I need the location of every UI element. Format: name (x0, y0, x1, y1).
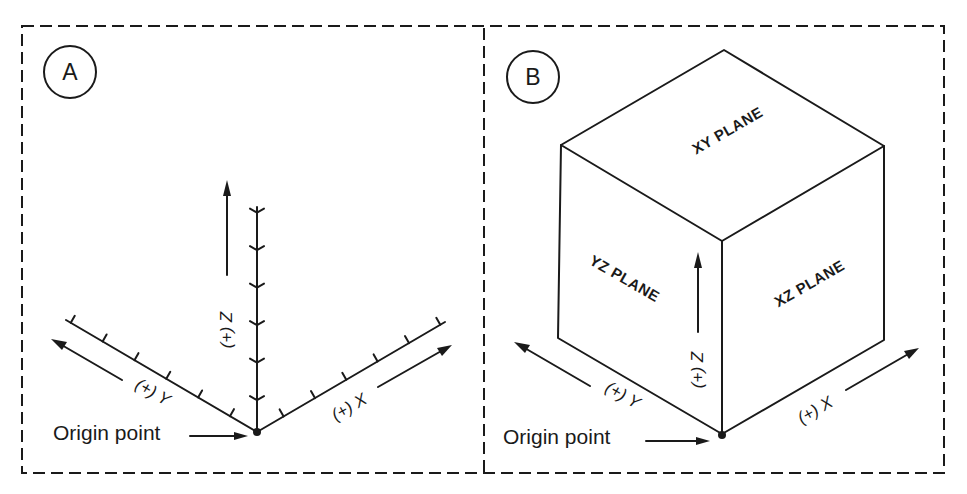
badge-label: B (525, 64, 540, 90)
axis-tick (134, 353, 138, 360)
origin-dot (253, 428, 261, 436)
axis-tick (257, 209, 264, 213)
axis-tick (342, 373, 346, 380)
axis-tick (250, 359, 257, 363)
badge-label: A (62, 59, 78, 85)
xz-plane-label: XZ PLANE (771, 256, 847, 310)
origin-dot (718, 431, 726, 439)
axis-tick (71, 316, 75, 323)
axis-tick (166, 372, 170, 379)
axis-tick (311, 391, 315, 398)
x-axis-label: (+) X (794, 392, 836, 427)
arrowhead-icon (223, 180, 231, 196)
isometric-cube (558, 50, 884, 434)
axis-tick (103, 334, 107, 341)
arrowhead-icon (696, 437, 710, 445)
cube-top-face (561, 50, 884, 241)
panel-a: A (+) Z (+) Y (+) X Origin point (44, 46, 452, 444)
axis-tick (257, 396, 264, 400)
axis-tick (230, 409, 234, 416)
axis-tick (198, 390, 202, 397)
origin-label: Origin point (53, 421, 161, 444)
axis-tick (257, 246, 264, 250)
y-direction-arrow (514, 342, 590, 386)
axis-tick (250, 209, 257, 213)
arrowhead-icon (51, 339, 67, 350)
axis-tick (250, 396, 257, 400)
arrowhead-icon (904, 348, 919, 359)
panel-a-badge: A (44, 46, 96, 98)
x-axis-label: (+) X (328, 389, 370, 424)
z-direction-arrow (694, 252, 702, 332)
axis-tick (405, 336, 409, 343)
origin-pointer-arrow (646, 437, 710, 445)
axis-tick (257, 359, 264, 363)
x-direction-arrow (378, 345, 452, 387)
axis-tick (374, 354, 378, 361)
y-axis-label: (+) Y (602, 378, 645, 414)
axis-tick (250, 284, 257, 288)
axis-tick (280, 409, 284, 416)
arrowhead-icon (234, 432, 248, 440)
axis-tick (436, 318, 440, 325)
panel-b-badge: B (507, 51, 559, 103)
x-direction-arrow (846, 348, 919, 390)
arrowhead-icon (694, 252, 702, 268)
yz-plane-label: YZ PLANE (587, 251, 663, 305)
panel-b: B XY PLANE YZ PLANE XZ PLANE (+) Z (+) Y… (503, 50, 919, 448)
y-direction-arrow (51, 339, 122, 380)
arrowhead-icon (437, 345, 452, 356)
xy-plane-label: XY PLANE (689, 103, 766, 157)
axis-tick (250, 321, 257, 325)
axis-tick (257, 321, 264, 325)
axis-tick (250, 246, 257, 250)
origin-label: Origin point (503, 425, 611, 448)
axis-ticks (71, 209, 441, 417)
arrowhead-icon (514, 342, 530, 353)
z-axis-label: (+) Z (217, 311, 236, 348)
coordinate-system-figure: A (+) Z (+) Y (+) X Origin point (0, 0, 967, 494)
axis-tick (257, 284, 264, 288)
z-direction-arrow (223, 180, 231, 275)
origin-pointer-arrow (190, 432, 248, 440)
z-axis-label: (+) Z (688, 351, 707, 388)
